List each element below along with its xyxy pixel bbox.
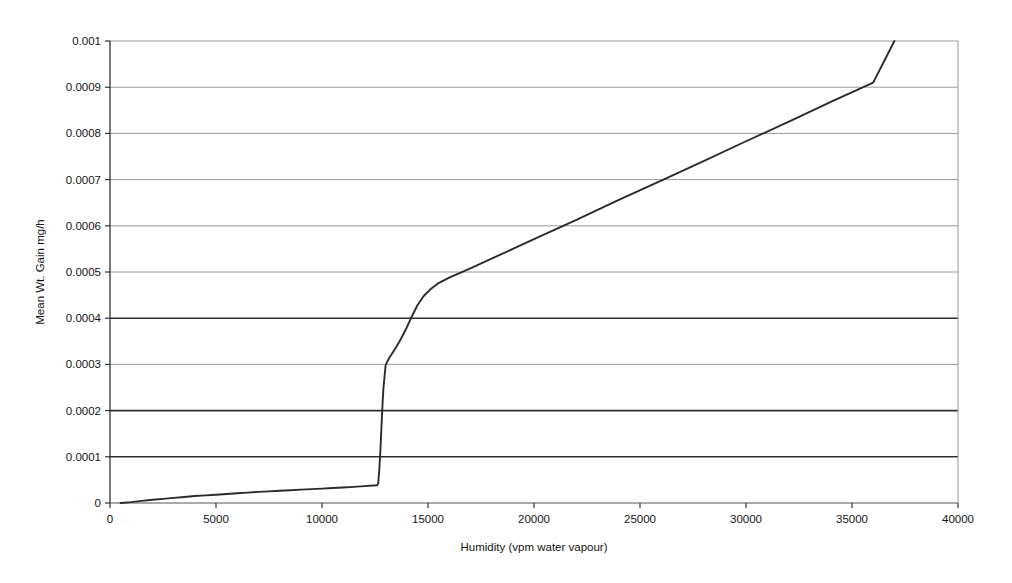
- x-tick-label: 0: [107, 513, 113, 525]
- x-tick-label: 25000: [624, 513, 656, 525]
- y-tick-label: 0.0003: [66, 358, 101, 370]
- line-chart: 00.00010.00020.00030.00040.00050.00060.0…: [0, 0, 1012, 583]
- y-tick-label: 0.0002: [66, 405, 101, 417]
- y-tick-label: 0.0006: [66, 220, 101, 232]
- x-tick-label: 30000: [730, 513, 762, 525]
- chart-container: 00.00010.00020.00030.00040.00050.00060.0…: [0, 0, 1012, 583]
- y-tick-label: 0: [95, 497, 101, 509]
- x-tick-label: 20000: [518, 513, 550, 525]
- x-tick-label: 10000: [306, 513, 338, 525]
- y-axis-title: Mean Wt. Gain mg/h: [34, 219, 46, 324]
- y-tick-label: 0.0004: [66, 312, 102, 324]
- x-tick-label: 35000: [836, 513, 868, 525]
- x-axis-title: Humidity (vpm water vapour): [461, 541, 608, 553]
- y-tick-label: 0.0009: [66, 81, 101, 93]
- x-tick-label: 40000: [942, 513, 974, 525]
- y-tick-label: 0.0001: [66, 451, 101, 463]
- x-tick-label: 5000: [203, 513, 229, 525]
- y-tick-label: 0.0005: [66, 266, 101, 278]
- y-tick-label: 0.0008: [66, 127, 101, 139]
- y-tick-group: 00.00010.00020.00030.00040.00050.00060.0…: [66, 35, 110, 509]
- x-tick-group: 0500010000150002000025000300003500040000: [107, 503, 974, 525]
- x-tick-label: 15000: [412, 513, 444, 525]
- y-tick-label: 0.0007: [66, 174, 101, 186]
- y-tick-label: 0.001: [72, 35, 101, 47]
- gridlines-group: [110, 41, 958, 457]
